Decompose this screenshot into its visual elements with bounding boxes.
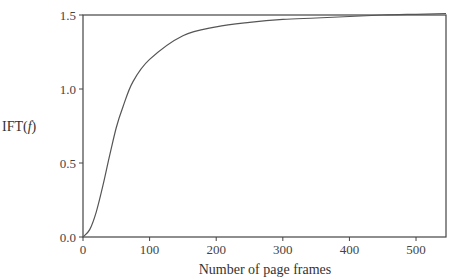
y-axis-label: IFT(f) (2, 119, 37, 135)
y-tick-label: 1.0 (60, 82, 76, 97)
y-tick-label: 0.0 (60, 230, 76, 245)
x-tick-label: 0 (80, 242, 87, 257)
y-axis-ticks: 0.00.51.01.5 (60, 8, 83, 245)
x-axis-ticks: 0100200300400500 (80, 237, 426, 257)
y-axis-label-suffix: ) (32, 119, 37, 135)
x-tick-label: 300 (273, 242, 293, 257)
x-tick-label: 400 (340, 242, 360, 257)
chart: 0100200300400500 0.00.51.01.5 Number of … (0, 0, 450, 280)
x-tick-label: 200 (206, 242, 226, 257)
data-line (83, 14, 446, 238)
x-tick-label: 500 (406, 242, 426, 257)
y-axis-label-prefix: IFT( (2, 119, 28, 135)
y-tick-label: 1.5 (60, 8, 76, 23)
x-tick-label: 100 (140, 242, 160, 257)
plot-frame (83, 15, 446, 237)
y-tick-label: 0.5 (60, 156, 76, 171)
x-axis-label: Number of page frames (199, 262, 332, 277)
